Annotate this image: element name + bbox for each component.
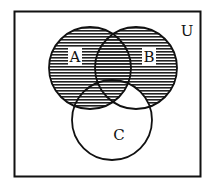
venn-diagram: A B C U (0, 0, 212, 191)
label-universe: U (181, 22, 194, 40)
label-a: A (69, 48, 81, 66)
label-b: B (143, 48, 154, 66)
label-c: C (113, 126, 124, 144)
